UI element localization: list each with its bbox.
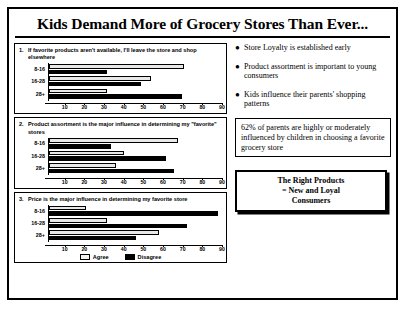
axis-tick-label: 30 — [101, 247, 107, 252]
axis-tick-label: 90 — [219, 247, 225, 252]
chart-number-2: 2. — [19, 121, 28, 135]
bar-agree — [49, 206, 86, 211]
chart-row: 28+ — [19, 230, 222, 242]
bar-agree — [49, 218, 107, 223]
chart-row: 28+ — [19, 88, 222, 100]
chart-title-text-1: If favorite products aren't available, I… — [28, 47, 222, 61]
title-divider — [15, 36, 390, 38]
bullet-item: ●Kids influence their parents' shopping … — [235, 90, 391, 109]
bullet-dot-icon: ● — [235, 62, 244, 81]
axis-tick-label: 20 — [81, 180, 87, 185]
chart-row: 8-16 — [19, 138, 222, 150]
chart-rows: 8-1616-2828+ — [19, 63, 222, 103]
category-label: 8-16 — [19, 67, 48, 72]
bar-track — [48, 63, 222, 75]
axis-line — [45, 103, 222, 104]
bullet-dot-icon: ● — [235, 43, 244, 53]
chart-legend: Agree Disagree — [19, 254, 222, 260]
x-axis: 102030405060708090 — [45, 245, 222, 253]
axis-tick-label: 70 — [180, 180, 186, 185]
bar-disagree — [49, 169, 174, 174]
chart-title-1: 1. If favorite products aren't available… — [19, 47, 222, 61]
bar-track — [48, 217, 222, 229]
chart-title-2: 2. Product assortment is the major influ… — [19, 121, 222, 135]
axis-tick-label: 30 — [101, 105, 107, 110]
category-label: 8-16 — [19, 141, 48, 146]
axis-tick-label: 10 — [62, 247, 68, 252]
legend-label-disagree: Disagree — [138, 254, 162, 260]
bullet-item: ●Product assortment is important to youn… — [235, 62, 391, 81]
bar-disagree — [49, 144, 111, 149]
bullet-list: ●Store Loyalty is established early●Prod… — [235, 43, 391, 109]
legend-swatch-disagree — [125, 254, 135, 260]
legend-label-agree: Agree — [93, 254, 109, 260]
axis-tick-label: 50 — [140, 105, 146, 110]
axis-tick-label: 10 — [62, 180, 68, 185]
bullet-text: Store Loyalty is established early — [244, 43, 391, 53]
bar-track — [48, 88, 222, 100]
chart-rows: 8-1616-2828+ — [19, 205, 222, 245]
axis-tick-label: 60 — [160, 247, 166, 252]
chart-row: 16-28 — [19, 150, 222, 162]
bar-agree — [49, 163, 116, 168]
bar-track — [48, 76, 222, 88]
bar-disagree — [49, 236, 136, 241]
axis-tick-label: 40 — [121, 105, 127, 110]
text-column: ●Store Loyalty is established early●Prod… — [227, 43, 391, 266]
bullet-dot-icon: ● — [235, 90, 244, 109]
axis-line — [45, 178, 222, 179]
chart-panel-2: 2. Product assortment is the major influ… — [14, 117, 227, 188]
axis-tick-label: 60 — [160, 180, 166, 185]
bar-disagree — [49, 94, 182, 99]
axis-tick-label: 20 — [81, 247, 87, 252]
statistic-callout: 62% of parents are highly or moderately … — [235, 118, 391, 157]
page-title: Kids Demand More of Grocery Stores Than … — [9, 15, 396, 33]
bar-agree — [49, 89, 107, 94]
axis-tick-label: 70 — [180, 105, 186, 110]
chart-plot-1: 8-1616-2828+102030405060708090 — [19, 63, 222, 111]
axis-tick-label: 10 — [62, 105, 68, 110]
bar-track — [48, 205, 222, 217]
chart-panel-3: 3. Price is the major influence in deter… — [14, 192, 227, 263]
axis-tick-label: 90 — [219, 180, 225, 185]
slide-body: 1. If favorite products aren't available… — [9, 43, 396, 266]
category-label: 16-28 — [19, 221, 48, 226]
legend-swatch-agree — [80, 254, 90, 260]
category-label: 16-28 — [19, 154, 48, 159]
bar-agree — [49, 76, 151, 81]
x-axis: 102030405060708090 — [45, 178, 222, 186]
chart-row: 28+ — [19, 163, 222, 175]
axis-tick-label: 50 — [140, 180, 146, 185]
bar-agree — [49, 230, 159, 235]
bullet-text: Kids influence their parents' shopping p… — [244, 90, 391, 109]
bar-agree — [49, 151, 124, 156]
bar-track — [48, 138, 222, 150]
chart-number-1: 1. — [19, 47, 28, 61]
bullet-item: ●Store Loyalty is established early — [235, 43, 391, 53]
x-axis: 102030405060708090 — [45, 103, 222, 111]
bar-agree — [49, 138, 178, 143]
conclusion-line-2: = New and Loyal — [242, 186, 380, 196]
bar-agree — [49, 64, 184, 69]
chart-title-text-2: Product assortment is the major influenc… — [28, 121, 222, 135]
legend-item-agree: Agree — [80, 254, 109, 260]
axis-tick-label: 70 — [180, 247, 186, 252]
chart-row: 8-16 — [19, 63, 222, 75]
chart-plot-2: 8-1616-2828+102030405060708090 — [19, 138, 222, 186]
chart-row: 16-28 — [19, 217, 222, 229]
chart-rows: 8-1616-2828+ — [19, 138, 222, 178]
axis-tick-label: 80 — [199, 105, 205, 110]
axis-tick-label: 50 — [140, 247, 146, 252]
bar-track — [48, 230, 222, 242]
axis-tick-label: 80 — [199, 247, 205, 252]
chart-panel-1: 1. If favorite products aren't available… — [14, 43, 227, 114]
legend-item-disagree: Disagree — [125, 254, 162, 260]
chart-title-text-3: Price is the major influence in determin… — [28, 196, 222, 203]
axis-tick-label: 30 — [101, 180, 107, 185]
axis-tick-label: 80 — [199, 180, 205, 185]
chart-row: 16-28 — [19, 76, 222, 88]
charts-column: 1. If favorite products aren't available… — [14, 43, 227, 266]
conclusion-line-3: Consumers — [242, 196, 380, 206]
chart-title-3: 3. Price is the major influence in deter… — [19, 196, 222, 203]
axis-tick-label: 60 — [160, 105, 166, 110]
